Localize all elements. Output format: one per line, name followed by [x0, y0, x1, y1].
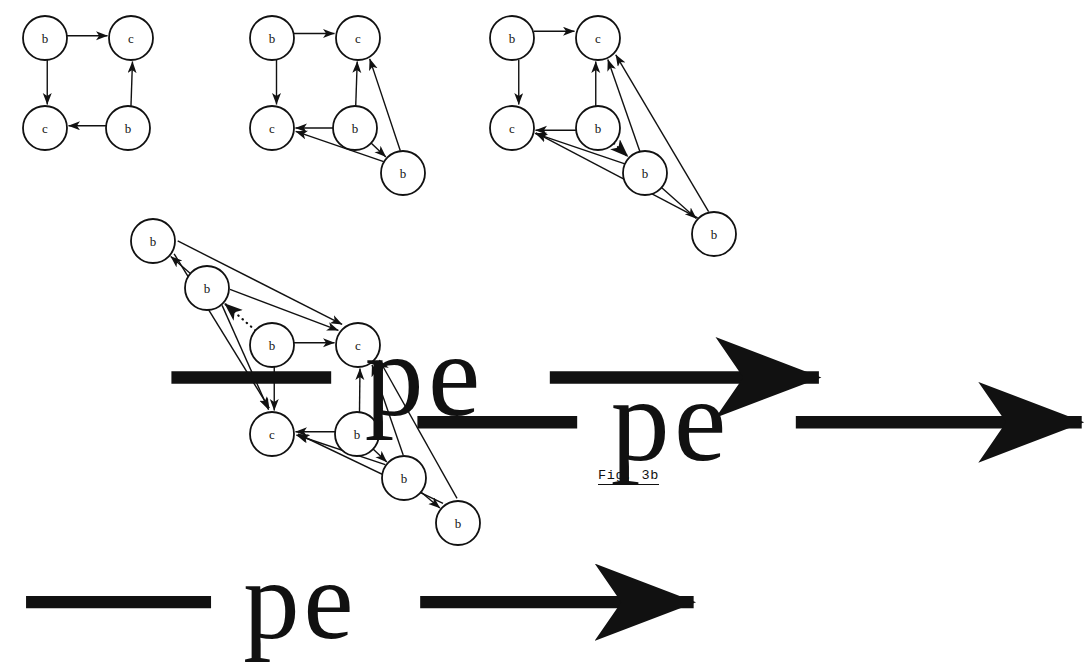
node-label: b	[42, 31, 49, 46]
node-label: b	[269, 31, 276, 46]
graph-node-b: b	[250, 16, 294, 60]
node-label: b	[150, 234, 157, 249]
graph-node-b: b	[23, 16, 67, 60]
node-label: c	[595, 31, 601, 46]
graph-node-b: b	[490, 16, 534, 60]
svg-text:pe: pe	[243, 538, 357, 662]
graph-edge	[131, 62, 132, 107]
graph-node-c: c	[23, 106, 67, 150]
node-label: b	[125, 121, 132, 136]
node-label: b	[509, 31, 516, 46]
graph-node-c: c	[109, 16, 153, 60]
graph-node-b: b	[106, 106, 150, 150]
node-label: c	[355, 31, 361, 46]
graph-node-c: c	[336, 16, 380, 60]
node-label: c	[128, 31, 134, 46]
graph-node-c: c	[576, 16, 620, 60]
node-label: c	[42, 121, 48, 136]
figure-caption: Fig. 3b	[598, 468, 659, 485]
